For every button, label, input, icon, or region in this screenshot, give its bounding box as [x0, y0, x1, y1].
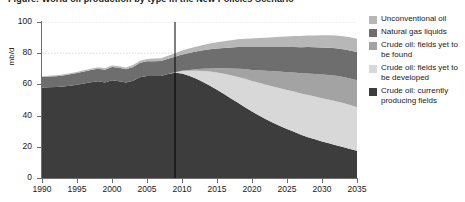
x-axis-tick	[147, 179, 148, 183]
legend-item-label: Unconventional oil	[381, 14, 446, 24]
x-axis-tick-label: 2035	[337, 185, 377, 194]
y-axis-tick-label: 20	[2, 142, 32, 151]
x-axis-tick-label: 2025	[267, 185, 307, 194]
y-axis-tick	[37, 22, 41, 23]
legend-item[interactable]: Natural gas liquids	[369, 27, 465, 37]
legend-item[interactable]: Crude oil: currently producing fields	[369, 86, 465, 106]
plot-area	[42, 22, 357, 178]
x-axis-tick	[287, 179, 288, 183]
x-axis-tick-label: 2020	[232, 185, 272, 194]
x-axis-tick-label: 1990	[22, 185, 62, 194]
x-axis-tick	[77, 179, 78, 183]
x-axis-tick	[357, 179, 358, 183]
legend-swatch-unconventional-oil	[369, 16, 377, 24]
x-axis-tick	[217, 179, 218, 183]
figure-title: Figure: World oil production by type in …	[8, 0, 294, 4]
x-axis-tick-label: 2030	[302, 185, 342, 194]
legend-swatch-fields-yet-to-be-found	[369, 42, 377, 50]
legend-item-label: Crude oil: fields yet to be developed	[381, 63, 465, 83]
legend-item-label: Crude oil: fields yet to be found	[381, 40, 465, 60]
legend-item-label: Natural gas liquids	[381, 27, 447, 37]
legend-item[interactable]: Crude oil: fields yet to be found	[369, 40, 465, 60]
y-axis-tick-label: 60	[2, 79, 32, 88]
x-axis-tick	[252, 179, 253, 183]
legend-swatch-currently-producing-fields	[369, 88, 377, 96]
legend-item[interactable]: Unconventional oil	[369, 14, 465, 24]
legend-swatch-fields-yet-to-be-developed	[369, 65, 377, 73]
y-axis-tick	[37, 84, 41, 85]
x-axis-tick	[42, 179, 43, 183]
chart-legend: Unconventional oilNatural gas liquidsCru…	[369, 14, 465, 109]
y-axis-tick	[37, 178, 41, 179]
x-axis-line	[41, 178, 358, 179]
y-axis-tick-label: 40	[2, 111, 32, 120]
stacked-area-svg	[42, 22, 357, 178]
y-axis-tick-label: 80	[2, 48, 32, 57]
legend-item[interactable]: Crude oil: fields yet to be developed	[369, 63, 465, 83]
y-axis-tick	[37, 53, 41, 54]
x-axis-tick-label: 2015	[197, 185, 237, 194]
y-axis-tick	[37, 116, 41, 117]
x-axis-tick-label: 2000	[92, 185, 132, 194]
legend-item-label: Crude oil: currently producing fields	[381, 86, 465, 106]
legend-swatch-natural-gas-liquids	[369, 29, 377, 37]
y-axis-tick-label: 0	[2, 173, 32, 182]
y-axis-tick	[37, 147, 41, 148]
x-axis-tick	[112, 179, 113, 183]
x-axis-tick-label: 2010	[162, 185, 202, 194]
chart-figure: Figure: World oil production by type in …	[0, 0, 465, 202]
x-axis-tick-label: 2005	[127, 185, 167, 194]
y-axis-tick-label: 100	[2, 17, 32, 26]
x-axis-tick-label: 1995	[57, 185, 97, 194]
x-axis-tick	[182, 179, 183, 183]
x-axis-tick	[322, 179, 323, 183]
